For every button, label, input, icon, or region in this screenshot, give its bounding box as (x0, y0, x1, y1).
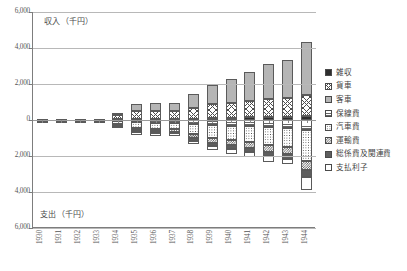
x-axis-tick-label: 1936 (151, 230, 158, 244)
x-axis-tick (80, 120, 81, 123)
bar-segment (263, 156, 274, 161)
legend-item-label: 客車 (336, 96, 352, 104)
bar-segment (207, 146, 218, 150)
bar-segment (301, 161, 312, 170)
gridline (33, 48, 316, 49)
legend-item: 支払利子 (325, 161, 407, 175)
x-axis-tick (42, 120, 43, 123)
x-axis-tick (250, 120, 251, 123)
legend-item-label: 汽車費 (336, 123, 360, 131)
bar-segment (112, 113, 123, 116)
x-axis-tick (212, 120, 213, 123)
bar-segment (282, 128, 293, 147)
legend-swatch-icon (325, 151, 332, 158)
x-axis-tick (118, 120, 119, 123)
legend-swatch-icon (325, 69, 332, 76)
x-axis-tick-label: 1939 (207, 230, 214, 244)
bar-segment (301, 177, 312, 190)
legend-swatch-icon (325, 96, 332, 103)
bar-segment (131, 111, 142, 119)
bar-segment (226, 79, 237, 103)
bar-segment (188, 108, 199, 119)
x-axis-tick-label: 1937 (170, 230, 177, 244)
x-axis-tick-label: 1938 (188, 230, 195, 244)
bar-segment (226, 103, 237, 118)
bar-segment (188, 124, 199, 134)
legend-item-label: 貨車 (336, 82, 352, 90)
legend-swatch-icon (325, 137, 332, 144)
x-axis-tick (156, 120, 157, 123)
x-axis-tick-label: 1944 (302, 230, 309, 244)
y-axis-caption-revenue: 収入（千円） (44, 17, 94, 26)
bar-segment (263, 145, 274, 151)
bar-segment (131, 104, 142, 112)
legend-item-label: 総係費及関連費 (336, 150, 391, 158)
bar-segment (169, 133, 180, 136)
bar-segment (282, 159, 293, 164)
bar-segment (169, 123, 180, 129)
legend-item-label: 運輸費 (336, 137, 360, 145)
x-axis-tick (288, 120, 289, 123)
x-axis-tick-label: 1930 (37, 230, 44, 244)
legend-swatch-icon (325, 164, 332, 171)
legend-item: 雑収 (325, 66, 407, 80)
x-axis-tick (137, 120, 138, 123)
bar-segment (263, 64, 274, 99)
x-axis-tick (307, 120, 308, 123)
bar-segment (226, 126, 237, 140)
y-axis-tick-label: 6,000 (0, 224, 30, 231)
bar-segment (169, 111, 180, 119)
legend-swatch-icon (325, 83, 332, 90)
bar-segment (282, 147, 293, 154)
x-axis-tick-label: 1941 (245, 230, 252, 244)
y-axis-tick-label: 6,000 (0, 8, 30, 15)
x-axis-tick-label: 1940 (226, 230, 233, 244)
x-axis-tick (175, 120, 176, 123)
x-axis-tick (269, 120, 270, 123)
bar-segment (150, 103, 161, 111)
bar-segment (131, 132, 142, 135)
bar-segment (207, 104, 218, 118)
x-axis-tick (231, 120, 232, 123)
y-axis-tick-label: 4,000 (0, 44, 30, 51)
y-axis-tick-label: 0 (0, 116, 30, 123)
legend-swatch-icon (325, 124, 332, 131)
legend-item: 保線費 (325, 107, 407, 121)
bar-segment (244, 126, 255, 142)
bar-segment (112, 126, 123, 128)
plot-area (32, 12, 315, 228)
x-axis-tick-label: 1932 (75, 230, 82, 244)
bar-segment (282, 60, 293, 98)
legend-item: 貨車 (325, 80, 407, 94)
y-axis-tick-label: 2,000 (0, 80, 30, 87)
legend-item-label: 保線費 (336, 110, 360, 118)
legend-item-label: 支払利子 (336, 164, 368, 172)
bar-segment (150, 133, 161, 136)
y-axis-caption-expenditure: 支出（千円） (40, 210, 90, 219)
bar-segment (301, 170, 312, 177)
bar-segment (301, 95, 312, 116)
x-axis-tick-label: 1931 (56, 230, 63, 244)
chart-legend: 雑収貨車客車保線費汽車費運輸費総係費及関連費支払利子 (325, 66, 407, 175)
gridline (33, 84, 316, 85)
bar-segment (226, 149, 237, 154)
revenue-expenditure-chart: 6,0004,0002,00002,0004,0006,000 収入（千円） 支… (0, 0, 407, 271)
bar-segment (263, 127, 274, 145)
bar-segment (150, 111, 161, 119)
x-axis-tick-label: 1933 (94, 230, 101, 244)
bar-segment (188, 141, 199, 145)
x-axis-tick-label: 1943 (283, 230, 290, 244)
legend-item-label: 雑収 (336, 69, 352, 77)
bar-segment (301, 42, 312, 94)
x-axis-tick-label: 1935 (132, 230, 139, 244)
y-axis-tick-label: 2,000 (0, 152, 30, 159)
gridline (33, 192, 316, 193)
bar-segment (282, 98, 293, 116)
bar-segment (244, 101, 255, 117)
legend-item: 客車 (325, 93, 407, 107)
y-axis-tick-label: 4,000 (0, 188, 30, 195)
x-axis-tick-label: 1942 (264, 230, 271, 244)
x-axis-labels: 1930193119321933193419351936193719381939… (32, 230, 315, 262)
bar-segment (263, 99, 274, 117)
legend-item: 総係費及関連費 (325, 148, 407, 162)
